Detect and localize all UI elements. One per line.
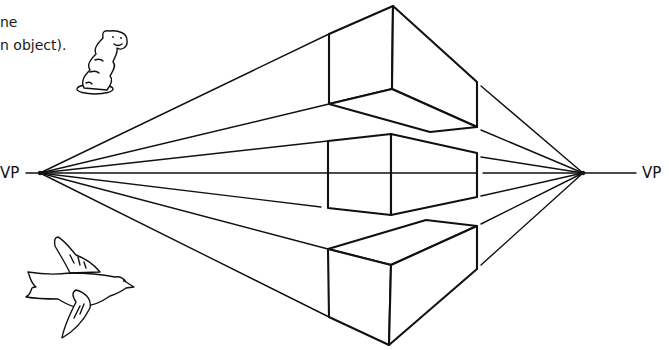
right-vanishing-point (581, 171, 585, 175)
worm-icon (77, 31, 127, 94)
bird-icon (26, 237, 134, 338)
right-vp-lines (481, 86, 583, 265)
top-box (329, 6, 477, 132)
left-vanishing-point (38, 171, 42, 175)
middle-box (328, 134, 477, 215)
bottom-box (328, 220, 477, 345)
perspective-drawing (0, 0, 669, 350)
